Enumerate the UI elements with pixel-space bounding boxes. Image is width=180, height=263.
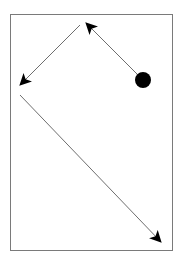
arrows-group	[20, 23, 161, 242]
diagram-frame	[11, 15, 173, 251]
arrow-1	[86, 23, 137, 74]
arrow-3	[20, 95, 161, 242]
diagram-canvas	[0, 0, 180, 263]
arrow-2	[20, 25, 80, 85]
start-point-dot	[135, 72, 151, 88]
